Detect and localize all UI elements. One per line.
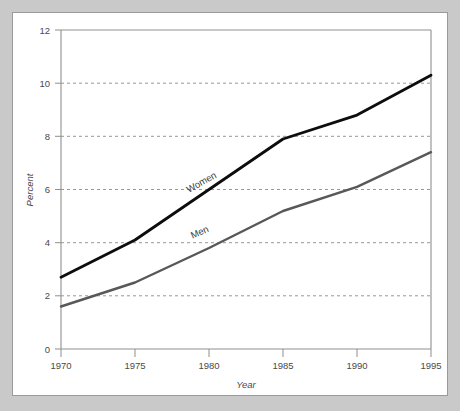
y-tick-label-6: 6 <box>45 184 50 195</box>
x-tick-label-1980: 1980 <box>198 360 219 371</box>
x-axis-ticks <box>61 349 431 357</box>
x-tick-label-1990: 1990 <box>346 360 367 371</box>
x-tick-label-1970: 1970 <box>50 360 71 371</box>
y-axis-title: Percent <box>24 173 35 206</box>
gridlines-horizontal <box>61 83 431 296</box>
y-tick-label-4: 4 <box>45 237 50 248</box>
line-chart: 12 10 8 6 4 2 0 1970 1975 1980 1985 1990… <box>13 13 449 397</box>
figure-panel: 12 10 8 6 4 2 0 1970 1975 1980 1985 1990… <box>12 12 448 396</box>
y-axis-ticks <box>55 30 61 349</box>
y-tick-label-8: 8 <box>45 131 50 142</box>
y-tick-label-10: 10 <box>39 78 50 89</box>
series-label-women: Women <box>184 169 218 194</box>
y-axis-tick-labels: 12 10 8 6 4 2 0 <box>39 25 50 355</box>
y-tick-label-12: 12 <box>39 25 50 36</box>
x-axis-tick-labels: 1970 1975 1980 1985 1990 1995 <box>50 360 441 371</box>
y-tick-label-0: 0 <box>45 344 50 355</box>
series-line-women <box>61 75 431 277</box>
caption-strip <box>0 400 460 411</box>
y-tick-label-2: 2 <box>45 290 50 301</box>
x-tick-label-1985: 1985 <box>272 360 293 371</box>
series-label-men: Men <box>189 223 210 241</box>
x-axis-title: Year <box>236 379 256 390</box>
series-line-men <box>61 152 431 306</box>
x-tick-label-1995: 1995 <box>420 360 441 371</box>
x-tick-label-1975: 1975 <box>124 360 145 371</box>
